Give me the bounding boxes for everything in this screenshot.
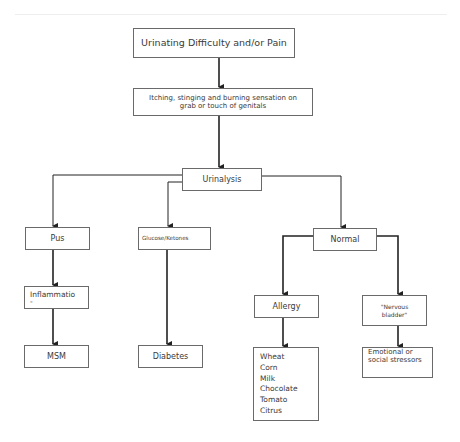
node-glucose-ketones-label: Glucose/Ketones (142, 235, 189, 242)
food-item: Corn (260, 363, 278, 374)
node-urinalysis-label: Urinalysis (203, 175, 242, 185)
node-emotional-stressors: Emotional or social stressors (362, 347, 433, 378)
node-normal-label: Normal (331, 235, 360, 245)
node-food-list: Wheat Corn Milk Chocolate Tomato Citrus (253, 347, 319, 421)
node-pus-label: Pus (51, 234, 65, 244)
food-item: Wheat (260, 352, 284, 363)
food-item: Chocolate (260, 384, 298, 395)
node-nervous-bladder: "Nervous bladder" (362, 295, 427, 326)
node-inflammation-line2: - (30, 299, 33, 305)
node-emotional-line2: social stressors (368, 356, 422, 364)
node-nervous-line1: "Nervous (381, 303, 409, 310)
node-diabetes-label: Diabetes (153, 352, 189, 362)
food-item: Citrus (260, 406, 282, 417)
node-allergy-label: Allergy (273, 302, 301, 312)
node-inflammation-line1: Inflammatio (30, 290, 75, 299)
node-symptom: Itching, stinging and burning sensation … (133, 88, 313, 116)
node-nervous-line2: bladder" (382, 311, 408, 318)
node-symptom-line2: grab or touch of genitals (180, 102, 266, 110)
node-msm-label: MSM (47, 352, 66, 362)
node-diabetes: Diabetes (138, 345, 203, 368)
node-allergy: Allergy (254, 295, 319, 318)
node-symptom-line1: Itching, stinging and burning sensation … (149, 94, 297, 102)
node-normal: Normal (313, 228, 377, 251)
node-glucose-ketones: Glucose/Ketones (138, 227, 211, 250)
node-urinalysis: Urinalysis (182, 168, 262, 191)
node-root: Urinating Difficulty and/or Pain (133, 28, 295, 58)
food-item: Tomato (260, 395, 287, 406)
node-emotional-line1: Emotional or (368, 348, 413, 356)
node-inflammation: Inflammatio - (24, 286, 89, 309)
node-msm: MSM (24, 345, 89, 368)
node-pus: Pus (25, 227, 90, 250)
food-item: Milk (260, 374, 275, 385)
node-root-label: Urinating Difficulty and/or Pain (141, 37, 287, 48)
